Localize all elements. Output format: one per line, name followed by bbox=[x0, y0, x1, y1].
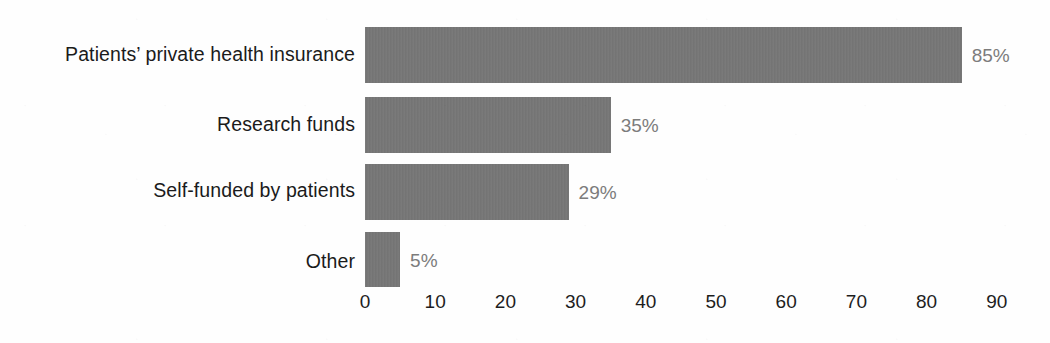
x-tick-label-0: 0 bbox=[360, 292, 371, 311]
x-tick-label-10: 10 bbox=[425, 292, 446, 311]
bar-research-funds bbox=[365, 97, 611, 153]
bar-self-funded-by-patients bbox=[365, 164, 569, 220]
x-tick-label-50: 50 bbox=[705, 292, 726, 311]
x-tick-label-90: 90 bbox=[986, 292, 1007, 311]
category-label-patients-private-health-insurance: Patients’ private health insurance bbox=[65, 45, 355, 65]
x-tick-label-40: 40 bbox=[635, 292, 656, 311]
bar-other bbox=[365, 232, 400, 287]
bar-chart: Patients’ private health insurance Resea… bbox=[0, 0, 1050, 343]
value-label-patients-private-health-insurance: 85% bbox=[972, 46, 1010, 65]
category-label-self-funded-by-patients: Self-funded by patients bbox=[153, 181, 355, 201]
x-tick-label-80: 80 bbox=[916, 292, 937, 311]
x-tick-label-60: 60 bbox=[776, 292, 797, 311]
x-tick-label-30: 30 bbox=[565, 292, 586, 311]
value-label-research-funds: 35% bbox=[621, 116, 659, 135]
x-tick-label-70: 70 bbox=[846, 292, 867, 311]
category-label-other: Other bbox=[306, 252, 355, 272]
value-label-other: 5% bbox=[410, 251, 437, 270]
value-label-self-funded-by-patients: 29% bbox=[579, 183, 617, 202]
category-label-research-funds: Research funds bbox=[217, 115, 355, 135]
x-tick-label-20: 20 bbox=[495, 292, 516, 311]
x-axis: 0102030405060708090 bbox=[0, 292, 1050, 322]
bar-patients-private-health-insurance bbox=[365, 27, 962, 83]
